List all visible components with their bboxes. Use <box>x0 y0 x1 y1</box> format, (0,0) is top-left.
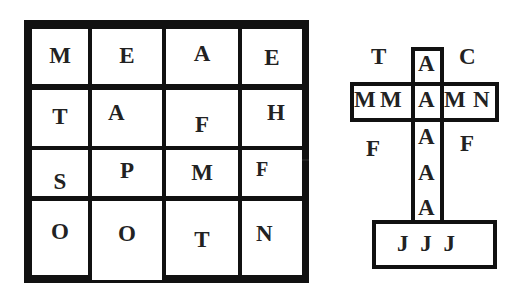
grid-cell: M <box>166 150 238 196</box>
grid-cell: S <box>32 150 88 196</box>
cross-horizontal-letter: N <box>473 87 490 113</box>
grid-cell: H <box>242 90 302 146</box>
grid-cell: A <box>166 29 238 84</box>
grid-cell: O <box>92 201 162 280</box>
cross-base-text: J J J <box>397 231 458 257</box>
grid-cell: T <box>32 90 88 146</box>
cross-vertical-letter: A <box>418 160 435 186</box>
cross-top-right-letter: C <box>459 44 476 70</box>
letter-grid: M E A E T A F H S P M F O O T N <box>24 20 309 283</box>
cross-horizontal-letter: M <box>444 87 466 113</box>
cross-vertical-letter: A <box>418 195 435 221</box>
cross-mid-left-letter: F <box>366 136 380 162</box>
cross-vertical-letter: A <box>418 124 435 150</box>
grid-cell: O <box>32 201 88 275</box>
grid-cell: M <box>32 29 88 84</box>
cross-top-center-letter: A <box>418 51 435 77</box>
grid-cell: A <box>92 90 162 146</box>
grid-cell: T <box>166 201 238 275</box>
cross-top-left-letter: T <box>371 44 386 70</box>
cross-mid-right-letter: F <box>460 131 474 157</box>
grid-cell: F <box>166 90 238 146</box>
grid-cell: E <box>242 29 302 84</box>
grid-cell: F <box>242 150 302 196</box>
grid-cell: N <box>242 201 302 275</box>
grid-cell: E <box>92 29 162 84</box>
cross-horizontal-letter: M <box>380 87 402 113</box>
grid-cell: P <box>92 150 162 196</box>
cross-horizontal-letter: M <box>354 87 376 113</box>
cross-horizontal-letter: A <box>418 87 435 113</box>
